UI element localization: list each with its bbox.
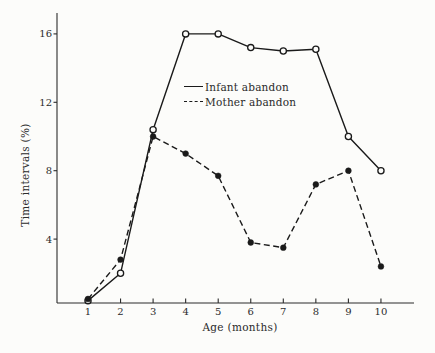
x-tick-label: 1 <box>85 306 91 317</box>
solid-line-sample-icon <box>184 86 203 87</box>
y-tick-label: 16 <box>39 28 52 39</box>
x-tick-label: 10 <box>375 306 388 317</box>
legend: Infant abandon Mother abandon <box>184 79 296 109</box>
data-point-filled-circle <box>150 134 156 140</box>
data-point-filled-circle <box>183 151 189 157</box>
data-point-open-circle <box>313 46 319 52</box>
legend-label-mother-abandon: Mother abandon <box>205 96 296 108</box>
x-tick-label: 2 <box>117 306 123 317</box>
data-point-open-circle <box>248 44 254 50</box>
data-point-open-circle <box>280 48 286 54</box>
legend-item-infant-abandon: Infant abandon <box>184 79 296 94</box>
chart-figure: 48121612345678910 Infant abandon Mother … <box>0 0 435 353</box>
x-axis-label: Age (months) <box>165 321 315 333</box>
legend-label-infant-abandon: Infant abandon <box>205 81 289 93</box>
data-point-open-circle <box>150 127 156 133</box>
dashed-line-sample-icon <box>184 101 203 102</box>
series-line-mother-abandon <box>88 137 381 299</box>
x-tick-label: 6 <box>248 306 254 317</box>
x-tick-label: 5 <box>215 306 221 317</box>
data-point-filled-circle <box>346 168 352 174</box>
data-point-filled-circle <box>378 264 384 270</box>
x-tick-label: 3 <box>150 306 156 317</box>
x-tick-label: 9 <box>345 306 351 317</box>
data-point-open-circle <box>117 270 123 276</box>
data-point-open-circle <box>345 133 351 139</box>
chart-svg: 48121612345678910 <box>0 0 435 353</box>
data-point-open-circle <box>378 168 384 174</box>
data-point-filled-circle <box>280 245 286 251</box>
x-tick-label: 7 <box>280 306 286 317</box>
data-point-filled-circle <box>118 257 124 263</box>
y-axis-label: Time intervals (%) <box>19 123 31 226</box>
y-tick-label: 12 <box>39 97 52 108</box>
data-point-open-circle <box>183 31 189 37</box>
y-tick-label: 4 <box>46 234 52 245</box>
legend-item-mother-abandon: Mother abandon <box>184 94 296 109</box>
data-point-filled-circle <box>313 181 319 187</box>
y-tick-label: 8 <box>46 165 52 176</box>
data-point-filled-circle <box>215 173 221 179</box>
data-point-filled-circle <box>248 240 254 246</box>
data-point-open-circle <box>215 31 221 37</box>
x-tick-label: 4 <box>182 306 188 317</box>
x-tick-label: 8 <box>313 306 319 317</box>
series-line-infant-abandon <box>88 34 381 301</box>
data-point-filled-circle <box>85 296 91 302</box>
